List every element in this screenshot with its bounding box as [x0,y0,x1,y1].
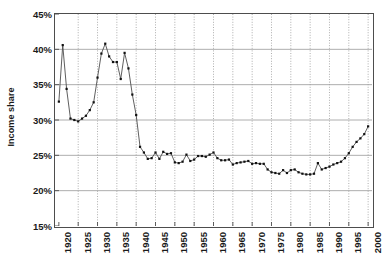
data-point-marker [344,157,346,159]
data-point-marker [58,101,60,103]
data-point-marker [81,117,83,119]
y-tick-label: 35% [18,80,52,90]
data-point-marker [340,161,342,163]
data-point-marker [328,166,330,168]
data-point-marker [212,151,214,153]
data-point-marker [224,159,226,161]
data-point-marker [158,158,160,160]
data-point-marker [69,117,71,119]
data-point-marker [259,163,261,165]
line-chart-svg [55,14,372,226]
data-point-marker [112,61,114,63]
data-point-marker [166,153,168,155]
x-tick-label: 1950 [179,232,189,253]
data-point-marker [336,162,338,164]
x-axis-ticks [59,222,368,226]
data-point-marker [185,154,187,156]
data-point-marker [355,141,357,143]
data-point-marker [321,168,323,170]
x-tick-label: 1945 [160,232,170,253]
data-point-marker [131,93,133,95]
data-point-marker [297,171,299,173]
data-point-marker [274,172,276,174]
data-point-marker [267,168,269,170]
data-point-marker [116,61,118,63]
data-point-marker [305,173,307,175]
y-tick-label: 45% [18,10,52,20]
data-point-marker [348,152,350,154]
data-point-marker [201,155,203,157]
x-tick-label: 1985 [315,232,325,253]
plot-inner [55,14,373,227]
x-tick-label: 1955 [199,232,209,253]
y-tick-label: 25% [18,151,52,161]
data-point-marker [282,169,284,171]
data-point-marker [181,161,183,163]
data-point-marker [317,162,319,164]
y-axis-ticks [55,14,59,226]
x-tick-label: 1990 [334,232,344,253]
data-point-marker [193,158,195,160]
x-tick-label: 1930 [102,232,112,253]
x-tick-label: 1960 [218,232,228,253]
y-tick-label: 40% [18,45,52,55]
x-tick-label: 1935 [121,232,131,253]
data-point-marker [255,162,257,164]
data-point-marker [139,146,141,148]
data-point-marker [170,152,172,154]
y-tick-label: 15% [18,222,52,232]
plot-area [54,13,374,228]
data-point-marker [123,52,125,54]
data-point-marker [120,78,122,80]
data-point-marker [232,163,234,165]
x-tick-label: 1995 [353,232,363,253]
x-tick-label: 1975 [276,232,286,253]
horizontal-gridlines [55,49,372,190]
data-point-marker [251,163,253,165]
x-tick-label: 1980 [295,232,305,253]
data-point-marker [278,173,280,175]
data-point-marker [263,163,265,165]
data-point-marker [93,101,95,103]
data-point-marker [313,173,315,175]
data-point-marker [96,77,98,79]
data-point-marker [301,173,303,175]
data-point-marker [104,43,106,45]
data-point-marker [363,133,365,135]
data-point-marker [127,67,129,69]
data-point-marker [359,137,361,139]
data-point-marker [162,151,164,153]
data-point-marker [286,172,288,174]
x-tick-label: 1965 [237,232,247,253]
data-point-marker [66,88,68,90]
data-point-marker [352,146,354,148]
x-tick-label: 1925 [83,232,93,253]
data-point-marker [147,158,149,160]
data-point-marker [332,163,334,165]
data-point-marker [209,154,211,156]
data-point-marker [143,151,145,153]
data-point-marker [62,44,64,46]
data-point-marker [325,167,327,169]
data-point-marker [89,109,91,111]
data-point-marker [270,171,272,173]
data-point-marker [236,162,238,164]
data-point-marker [239,161,241,163]
data-point-marker [174,161,176,163]
data-point-marker [247,160,249,162]
data-point-marker [309,173,311,175]
data-point-marker [189,160,191,162]
data-point-marker [73,119,75,121]
data-point-marker [85,115,87,117]
data-point-marker [290,169,292,171]
x-tick-label: 2000 [373,232,383,253]
data-point-marker [220,159,222,161]
data-point-marker [151,157,153,159]
y-tick-label: 20% [18,186,52,196]
data-point-marker [294,168,296,170]
x-tick-label: 1970 [257,232,267,253]
x-tick-label: 1920 [63,232,73,253]
data-point-marker [178,162,180,164]
y-tick-label: 30% [18,116,52,126]
data-point-marker [216,157,218,159]
